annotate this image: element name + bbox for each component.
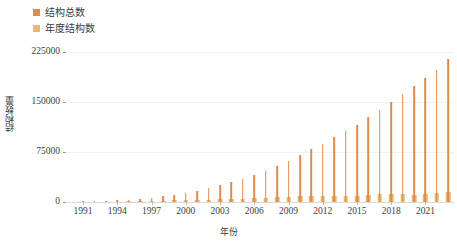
bar-group [89,52,100,202]
plot-area: 075000150000225000 [66,52,454,202]
bar-group [306,52,317,202]
bar-total [174,195,176,202]
bar-total [402,94,404,202]
y-tick-label: 225000 [2,46,60,56]
bar-total [311,149,313,202]
bar-total [231,182,233,202]
bar-total [390,102,392,202]
bar-total [413,86,415,202]
bar-total [322,144,324,202]
bar-group [100,52,111,202]
bar-group [123,52,134,202]
x-tick-mark [83,202,84,205]
bar-group [180,52,191,202]
bar-total [185,193,187,202]
bar-group [328,52,339,202]
bar-total [333,137,335,202]
bar-total [368,117,370,202]
legend-item-annual: 年度结构数 [33,22,95,35]
legend-swatch-annual [33,25,40,32]
bar-group [374,52,385,202]
bar-group [363,52,374,202]
bar-total [299,155,301,202]
bar-total [196,191,198,202]
x-tick-label: 2021 [405,206,445,216]
bar-total [208,188,210,202]
bar-total [356,125,358,202]
bar-group [260,52,271,202]
x-tick-mark [254,202,255,205]
bar-group [66,52,77,202]
x-tick-mark [391,202,392,205]
bar-total [276,166,278,202]
bar-group [408,52,419,202]
y-tick-label: 150000 [2,96,60,106]
x-tick-mark [425,202,426,205]
legend-swatch-total [33,9,40,16]
x-tick-mark [152,202,153,205]
x-tick-mark [117,202,118,205]
bar-total [436,70,438,202]
bar-group [294,52,305,202]
x-tick-mark [357,202,358,205]
bar-group [112,52,123,202]
bar-total [288,161,290,202]
bar-group [226,52,237,202]
x-tick-mark [186,202,187,205]
bar-group [77,52,88,202]
bar-total [447,59,449,202]
bar-group [134,52,145,202]
bar-group [249,52,260,202]
y-tick-label: 75000 [2,146,60,156]
bar-total [425,78,427,202]
x-axis-ticks: 1991199419972000200320062009201220152018… [66,202,454,222]
bar-series-group [66,52,454,202]
bar-group [420,52,431,202]
legend-item-total: 结构总数 [33,6,95,19]
x-axis-title: 年份 [0,225,457,238]
bar-group [237,52,248,202]
bar-group [271,52,282,202]
bar-group [192,52,203,202]
bar-total [219,185,221,202]
bar-total [345,131,347,202]
bar-group [431,52,442,202]
bar-group [317,52,328,202]
bar-group [351,52,362,202]
bar-group [283,52,294,202]
bar-group [157,52,168,202]
bar-group [169,52,180,202]
bar-group [214,52,225,202]
bar-total [242,179,244,202]
bar-total [253,175,255,202]
x-tick-mark [220,202,221,205]
x-tick-mark [289,202,290,205]
chart-container: 结构总数 年度结构数 结构数量 075000150000225000 19911… [0,0,457,245]
bar-group [146,52,157,202]
bar-group [386,52,397,202]
bar-group [340,52,351,202]
bar-total [379,110,381,202]
bar-group [443,52,454,202]
legend-label-annual: 年度结构数 [45,23,95,34]
chart-legend: 结构总数 年度结构数 [33,6,95,35]
bar-group [397,52,408,202]
bar-total [265,171,267,202]
x-tick-mark [323,202,324,205]
y-tick-label: 0 [2,196,60,206]
bar-group [203,52,214,202]
legend-label-total: 结构总数 [45,7,85,18]
